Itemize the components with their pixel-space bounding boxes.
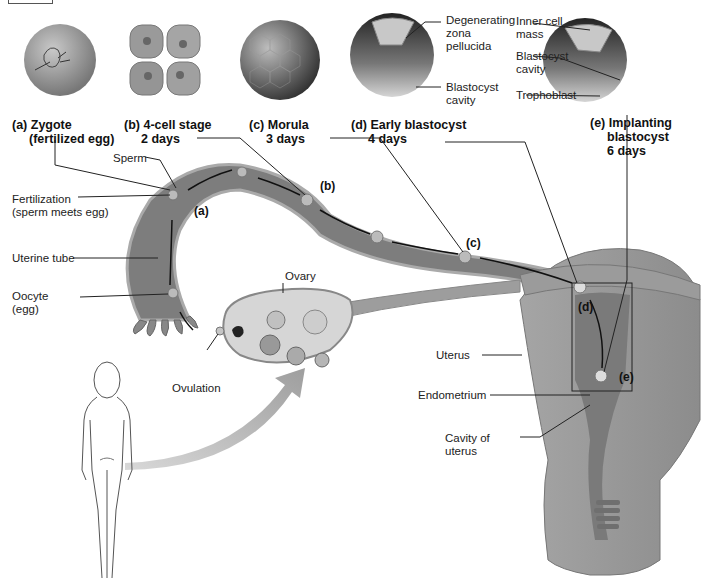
woman-figure [82, 362, 132, 578]
label-sperm: Sperm [113, 152, 147, 165]
stage-label-morula: (c) Morula3 days [249, 118, 309, 146]
path-marker-b: (b) [320, 179, 335, 193]
label-uterus: Uterus [436, 349, 470, 362]
label-cavity-of-uterus: Cavity ofuterus [445, 432, 490, 458]
label-trophoblast: Trophoblast [516, 89, 576, 102]
reproductive-tract-illustration [0, 0, 702, 588]
zygote-image [24, 24, 96, 96]
stage-label-zygote: (a) Zygote(fertilized egg) [12, 118, 114, 146]
four-cell-image [130, 25, 200, 95]
ovary-image [216, 289, 353, 367]
label-oocyte: Oocyte(egg) [12, 290, 48, 316]
stage-label-early-blastocyst: (d) Early blastocyst4 days [351, 118, 466, 146]
path-marker-d: (d) [578, 300, 593, 314]
label-blastocyst-cavity-d: Blastocystcavity [446, 81, 498, 107]
morula-image [240, 20, 320, 100]
stage-label-implanting-blastocyst: (e) Implantingblastocyst6 days [590, 116, 672, 158]
path-marker-e: (e) [619, 370, 634, 384]
label-blastocyst-cavity-e: Blastocystcavity [516, 50, 568, 76]
label-inner-cell-mass: Inner cellmass [516, 15, 563, 41]
label-ovulation: Ovulation [172, 382, 221, 395]
label-endometrium: Endometrium [418, 389, 486, 402]
label-uterine-tube: Uterine tube [12, 252, 75, 265]
stage-label-4-cell: (b) 4-cell stage2 days [124, 118, 212, 146]
path-marker-a: (a) [194, 204, 209, 218]
label-ovary: Ovary [285, 270, 316, 283]
path-marker-c: (c) [466, 236, 481, 250]
label-degenerating-zona: Degeneratingzonapellucida [446, 14, 515, 53]
label-fertilization: Fertilization(sperm meets egg) [12, 193, 109, 219]
